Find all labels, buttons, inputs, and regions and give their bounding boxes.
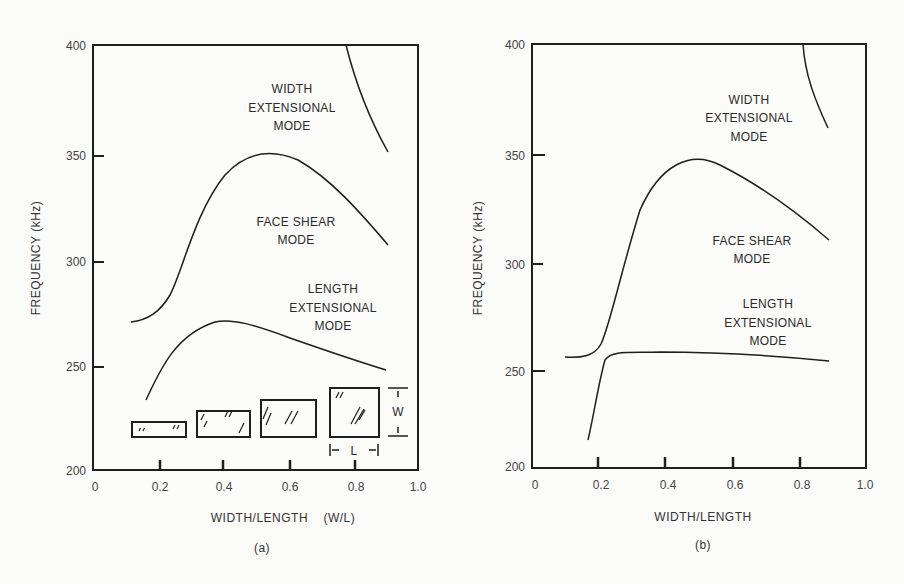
svg-text:EXTENSIONAL: EXTENSIONAL [289,301,376,315]
annotations: WIDTH EXTENSIONAL MODE FACE SHEAR MODE L… [248,82,376,333]
svg-text:WIDTH: WIDTH [272,82,313,96]
length-extensional-curve [588,352,829,440]
panel-a: 400 350 300 250 200 0 0.2 0.4 0.6 0.8 1.… [29,39,427,555]
y-ticks [532,155,545,371]
svg-text:EXTENSIONAL: EXTENSIONAL [724,316,811,330]
svg-text:350: 350 [66,149,86,163]
svg-text:300: 300 [66,255,86,269]
svg-text:MODE: MODE [277,233,314,247]
width-extensional-curve [803,44,828,128]
svg-text:1.0: 1.0 [857,478,874,492]
svg-text:300: 300 [505,258,525,272]
annotations: WIDTH EXTENSIONAL MODE FACE SHEAR MODE L… [705,93,811,348]
x-axis-title: WIDTH/LENGTH [654,510,751,524]
y-ticks [93,156,104,367]
y-tick-labels: 400 350 300 250 200 [505,38,525,474]
svg-text:200: 200 [505,460,525,474]
svg-text:MODE: MODE [730,130,767,144]
svg-text:0: 0 [92,480,99,494]
svg-text:MODE: MODE [749,334,786,348]
svg-text:0.2: 0.2 [593,478,610,492]
svg-text:0.6: 0.6 [282,480,299,494]
svg-text:LENGTH: LENGTH [743,297,793,311]
x-axis-title: WIDTH/LENGTH (W/L) [211,511,356,525]
svg-text:0.8: 0.8 [794,478,811,492]
length-dimension-label: L [351,444,358,458]
svg-text:250: 250 [505,365,525,379]
svg-text:0.2: 0.2 [152,480,169,494]
plate-diagram [132,388,408,456]
y-axis-title: FREQUENCY (kHz) [29,201,43,316]
svg-text:1.0: 1.0 [410,480,427,494]
svg-text:FACE SHEAR: FACE SHEAR [256,215,335,229]
panel-label: (a) [254,541,270,555]
svg-text:EXTENSIONAL: EXTENSIONAL [705,111,792,125]
figure: 400 350 300 250 200 0 0.2 0.4 0.6 0.8 1.… [0,0,904,584]
panel-b: 400 350 300 250 200 0 0.2 0.4 0.6 0.8 1.… [471,38,874,552]
svg-text:400: 400 [66,39,86,53]
face-shear-curve [131,153,388,322]
svg-text:LENGTH: LENGTH [308,282,358,296]
svg-text:0: 0 [532,478,539,492]
svg-text:400: 400 [505,38,525,52]
svg-text:250: 250 [66,360,86,374]
svg-text:0.8: 0.8 [348,480,365,494]
width-extensional-curve [346,45,388,152]
svg-text:MODE: MODE [733,252,770,266]
svg-text:350: 350 [505,149,525,163]
svg-text:0.6: 0.6 [727,478,744,492]
x-tick-labels: 0 0.2 0.4 0.6 0.8 1.0 [92,480,427,494]
svg-text:EXTENSIONAL: EXTENSIONAL [248,101,335,115]
x-ticks [160,460,355,470]
y-axis-title: FREQUENCY (kHz) [471,201,485,316]
x-tick-labels: 0 0.2 0.4 0.6 0.8 1.0 [532,478,874,492]
panel-label: (b) [695,538,711,552]
plot-frame [532,44,866,468]
y-tick-labels: 400 350 300 250 200 [66,39,86,478]
svg-text:WIDTH: WIDTH [729,93,770,107]
svg-text:200: 200 [66,464,86,478]
svg-text:MODE: MODE [273,119,310,133]
x-ticks [598,457,800,468]
width-dimension-label: W [392,405,404,419]
svg-text:0.4: 0.4 [216,480,233,494]
svg-text:MODE: MODE [314,319,351,333]
svg-text:0.4: 0.4 [660,478,677,492]
svg-text:FACE SHEAR: FACE SHEAR [712,234,791,248]
